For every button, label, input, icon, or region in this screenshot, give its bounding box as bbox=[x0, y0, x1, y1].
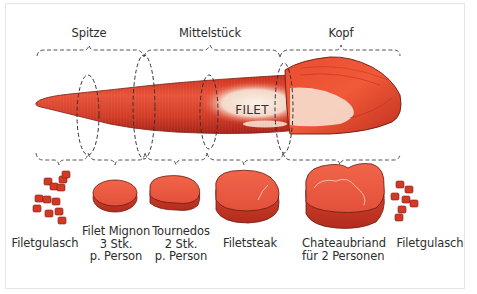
section-label-spitze: Spitze bbox=[72, 27, 107, 40]
brace-filetgulasch-left bbox=[36, 153, 88, 165]
cut-tournedos bbox=[150, 176, 200, 211]
cut-label-chateaubriand: Chateaubriand für 2 Personen bbox=[302, 237, 386, 262]
cut-label-line: Tournedos bbox=[152, 225, 210, 238]
cut-chateaubriand bbox=[306, 164, 385, 229]
cut-label-line: p. Person bbox=[82, 250, 150, 263]
cut-filetgulasch-right-cubes bbox=[391, 181, 418, 221]
cut-label-filetgulasch-left: Filetgulasch bbox=[12, 237, 79, 250]
cut-label-line: Filetgulasch bbox=[12, 237, 79, 250]
cut-label-line: Filet Mignon bbox=[82, 225, 150, 238]
bottom-cut-braces bbox=[36, 153, 400, 165]
cut-label-line: Filetsteak bbox=[223, 237, 277, 250]
brace-tournedos bbox=[145, 153, 207, 165]
cut-filetgulasch-left-cubes bbox=[33, 171, 70, 224]
beef-filet-diagram: Spitze Mittelstück Kopf FILET Filetgulas… bbox=[0, 0, 477, 294]
brace-chateaubriand bbox=[283, 153, 400, 165]
cut-label-filetsteak: Filetsteak bbox=[223, 237, 277, 250]
brace-filetsteak bbox=[207, 153, 283, 165]
top-section-braces bbox=[37, 45, 400, 57]
cut-label-filetgulasch-right: Filetgulasch bbox=[397, 237, 464, 250]
brace-filet-mignon bbox=[88, 153, 145, 165]
brace-spitze bbox=[37, 45, 144, 57]
cut-label-tournedos: Tournedos 2 Stk. p. Person bbox=[152, 225, 210, 263]
cut-label-line: Filetgulasch bbox=[397, 237, 464, 250]
cut-label-line: p. Person bbox=[152, 250, 210, 263]
brace-mittelstueck bbox=[144, 45, 280, 57]
cut-filet-mignon bbox=[93, 180, 137, 212]
section-label-mittelstueck: Mittelstück bbox=[179, 27, 241, 40]
cut-label-line: Chateaubriand bbox=[302, 237, 386, 250]
cut-filetsteak bbox=[216, 170, 279, 223]
brace-kopf bbox=[280, 45, 400, 57]
filet-label: FILET bbox=[235, 103, 269, 117]
cut-label-filet-mignon: Filet Mignon 3 Stk. p. Person bbox=[82, 225, 150, 263]
section-label-kopf: Kopf bbox=[329, 27, 354, 40]
filet-body bbox=[36, 57, 401, 134]
cut-label-line: für 2 Personen bbox=[302, 250, 386, 263]
